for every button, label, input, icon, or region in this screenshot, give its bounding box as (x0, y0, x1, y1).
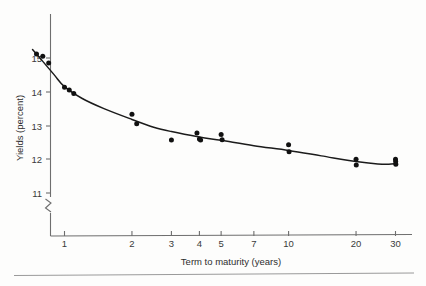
x-tick-label-3: 3 (169, 238, 174, 249)
yield-curve-chart: 15 14 13 12 11 123457102030 Term to matu… (0, 0, 426, 286)
y-tick-label-13: 13 (31, 121, 42, 132)
axes-group (46, 14, 413, 236)
y-tick-label-12: 12 (31, 154, 42, 165)
x-tick-labels: 123457102030 (62, 238, 401, 249)
x-tick-label-7: 7 (251, 238, 256, 249)
x-tick-label-4: 4 (197, 238, 202, 249)
data-point (287, 149, 292, 154)
data-point (67, 88, 72, 93)
x-tick-label-1: 1 (62, 238, 67, 249)
data-point (40, 54, 45, 59)
data-point (169, 138, 174, 143)
data-point (46, 61, 51, 66)
y-axis-title: Yields (percent) (14, 95, 25, 161)
y-tick-labels: 15 14 13 12 11 (31, 53, 42, 199)
chart-figure: 15 14 13 12 11 123457102030 Term to matu… (0, 0, 426, 286)
y-tick-label-14: 14 (31, 87, 42, 98)
data-point (198, 138, 203, 143)
data-point (354, 157, 359, 162)
x-tick-label-30: 30 (390, 238, 401, 249)
fitted-yield-curve (33, 50, 396, 165)
y-axis-break-icon (46, 199, 52, 212)
x-tick-label-2: 2 (129, 238, 134, 249)
data-point (62, 85, 67, 90)
x-axis-title: Term to maturity (years) (181, 256, 281, 267)
x-tick-label-20: 20 (351, 238, 362, 249)
x-axis-line (51, 235, 413, 237)
data-point (219, 132, 224, 137)
data-point (71, 91, 76, 96)
data-point (286, 142, 291, 147)
y-tick-label-11: 11 (32, 188, 42, 199)
footer-divider (14, 273, 414, 276)
x-tick-label-10: 10 (283, 238, 294, 249)
data-point (129, 112, 134, 117)
data-point (194, 130, 199, 135)
data-point (393, 162, 398, 167)
data-point (34, 51, 39, 56)
data-point (134, 121, 139, 126)
x-tick-label-5: 5 (218, 238, 223, 249)
data-point-group (34, 51, 398, 167)
data-point (220, 137, 225, 142)
data-point (354, 162, 359, 167)
